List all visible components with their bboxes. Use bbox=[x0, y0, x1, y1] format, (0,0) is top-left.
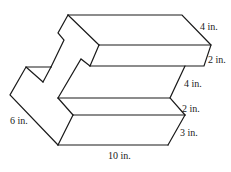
top-bar bbox=[68, 15, 211, 66]
solid-diagram: 4 in. 2 in. 4 in. 2 in. 3 in. 6 in. 10 i… bbox=[0, 0, 231, 172]
label-top-depth: 4 in. bbox=[200, 21, 218, 32]
left-piece bbox=[10, 67, 58, 145]
bottom-slab bbox=[58, 115, 185, 145]
label-gap-height: 4 in. bbox=[184, 78, 202, 89]
label-bottom-length: 10 in. bbox=[108, 150, 131, 161]
middle-ledge bbox=[58, 66, 185, 115]
label-middle-ledge-height: 2 in. bbox=[182, 103, 200, 114]
label-top-bar-height: 2 in. bbox=[208, 54, 226, 65]
label-bottom-height: 3 in. bbox=[180, 127, 198, 138]
label-left-depth: 6 in. bbox=[10, 115, 28, 126]
stem bbox=[43, 15, 90, 98]
